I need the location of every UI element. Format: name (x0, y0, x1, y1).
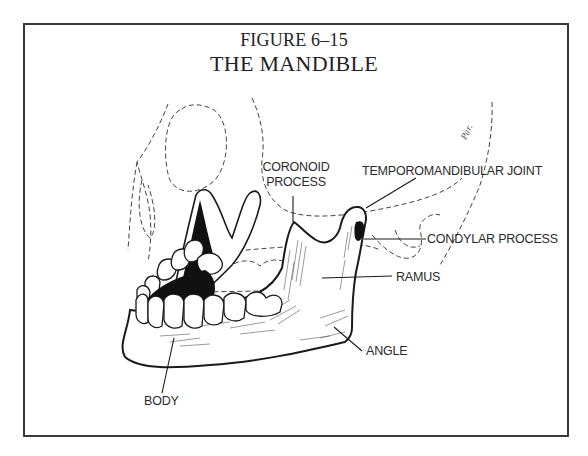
label-coronoid-line1: CORONOID (258, 160, 334, 175)
mandible-illustration: Par. (0, 0, 588, 456)
label-ramus: RAMUS (396, 270, 440, 285)
label-condylar-process: CONDYLAR PROCESS (427, 232, 558, 247)
label-coronoid-process: CORONOID PROCESS (258, 160, 334, 190)
label-coronoid-line2: PROCESS (258, 175, 334, 190)
leader-tmj (366, 178, 416, 208)
label-temporomandibular-joint: TEMPOROMANDIBULAR JOINT (362, 164, 542, 179)
label-body: BODY (144, 394, 179, 409)
artist-signature: Par. (459, 123, 474, 142)
label-angle: ANGLE (366, 344, 407, 359)
